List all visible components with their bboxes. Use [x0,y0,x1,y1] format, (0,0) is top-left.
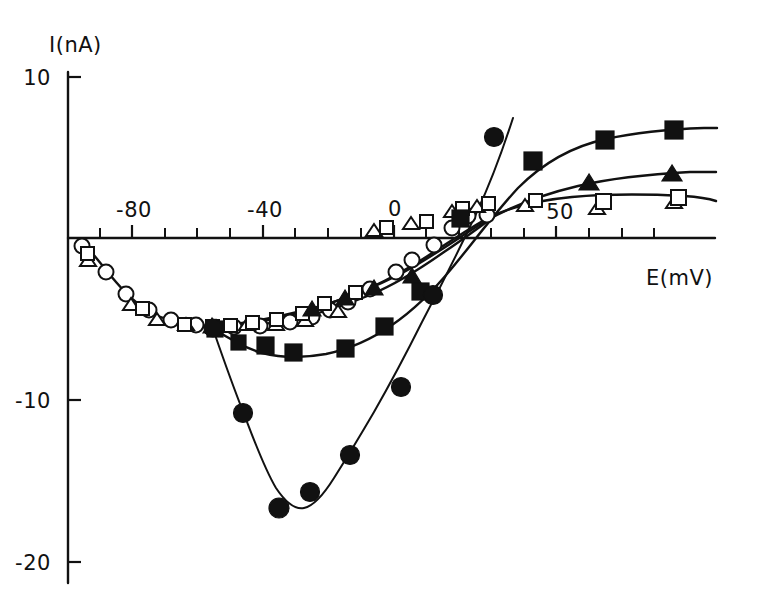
data-point-open-square [81,247,94,260]
x-tick-label-minus-40: -40 [247,198,283,222]
data-point-open-circle [389,265,404,280]
data-point-filled-square [524,152,542,170]
data-point-open-triangle [403,217,419,229]
data-point-filled-square [452,210,469,227]
y-tick-label-10: 10 [23,66,51,90]
data-point-open-square [178,318,191,331]
data-point-open-square [420,215,433,228]
data-point-open-square [596,194,611,209]
data-point-filled-circle [392,378,411,397]
data-point-open-square [482,197,495,210]
data-point-filled-circle [424,286,443,305]
data-point-open-circle [405,253,420,268]
data-point-filled-square [231,335,246,350]
data-point-open-square [246,316,259,329]
data-point-open-square [270,313,283,326]
data-point-open-square [380,221,393,234]
data-point-filled-square [596,131,614,149]
data-point-open-circle [427,238,442,253]
data-point-filled-square [257,337,274,354]
x-tick-label-minus-80: -80 [116,198,152,222]
data-point-open-square [671,190,686,205]
data-point-filled-circle [301,483,320,502]
data-point-filled-circle [269,498,289,518]
data-point-open-square [224,319,237,332]
data-point-filled-circle [485,128,504,147]
x-tick-label-0: 0 [388,197,402,221]
data-point-open-circle [99,265,114,280]
x-axis-label: E(mV) [646,266,713,290]
y-axis-label: I(nA) [49,33,102,57]
data-point-open-square [318,297,331,310]
curve-filled-circle-series [213,118,513,508]
data-point-open-square [136,302,149,315]
data-point-filled-circle [204,319,222,337]
iv-curve-plot: I(nA) E(mV) 10 -10 -20 -80 -40 0 50 [0,0,757,607]
data-point-filled-circle [341,446,360,465]
data-point-filled-square [285,344,302,361]
y-tick-label-minus-20: -20 [15,551,51,575]
data-point-filled-square [376,318,393,335]
data-point-filled-square [665,121,683,139]
data-point-open-square [349,286,362,299]
y-axis-ticks [68,77,81,562]
y-tick-label-minus-10: -10 [15,389,51,413]
x-tick-label-50: 50 [546,200,574,224]
curves-group [81,118,717,508]
data-point-filled-square [337,340,354,357]
data-point-open-square [529,194,542,207]
data-point-filled-circle [234,404,253,423]
x-axis-ticks [68,225,654,238]
chart-figure: I(nA) E(mV) 10 -10 -20 -80 -40 0 50 [0,0,757,607]
